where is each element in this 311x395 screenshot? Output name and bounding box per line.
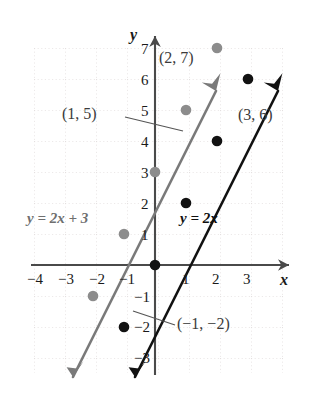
y-tick-5: 5 <box>141 104 149 119</box>
coordinate-plane <box>0 0 311 395</box>
annotation-point-1-5: (1, 5) <box>62 106 97 122</box>
x-tick-neg1: −1 <box>119 272 135 287</box>
y-tick-1: 1 <box>141 228 149 243</box>
y-tick-6: 6 <box>141 73 149 88</box>
x-tick-3: 3 <box>243 272 251 287</box>
y-tick-7: 7 <box>141 42 149 57</box>
x-axis-label: x <box>280 272 288 288</box>
annotation-point-3-6: (3, 6) <box>238 107 273 123</box>
x-tick-2: 2 <box>212 272 220 287</box>
graph-figure: y x −4 −3 −2 −1 1 2 3 7 6 5 4 3 2 1 −1 −… <box>0 0 311 395</box>
y-tick-3: 3 <box>141 166 149 181</box>
x-tick-neg3: −3 <box>58 272 74 287</box>
y-axis-label: y <box>130 27 137 43</box>
x-tick-1: 1 <box>182 272 190 287</box>
y-tick-4: 4 <box>141 135 149 150</box>
annotation-point-2-7: (2, 7) <box>159 50 194 66</box>
y-tick-2: 2 <box>141 197 149 212</box>
x-tick-neg4: −4 <box>27 272 43 287</box>
annotation-point-neg1-neg2: (−1, −2) <box>177 316 230 332</box>
y-tick-neg3: −3 <box>134 351 150 366</box>
y-tick-neg2: −2 <box>134 320 150 335</box>
y-tick-neg1: −1 <box>134 290 150 305</box>
x-tick-neg2: −2 <box>89 272 105 287</box>
equation-label-gray: y = 2x + 3 <box>27 211 88 226</box>
equation-label-black: y = 2x <box>180 211 218 226</box>
